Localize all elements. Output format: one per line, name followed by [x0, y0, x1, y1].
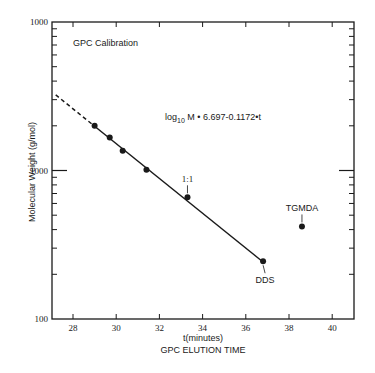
fit-line-dashed [56, 95, 95, 126]
point-label: TGMDA [286, 203, 319, 213]
x-tick-label: 34 [198, 323, 208, 333]
fit-line-solid [95, 126, 263, 262]
data-point [299, 223, 305, 229]
point-label: DDS [256, 275, 275, 285]
x-axis-label: t(minutes) [183, 333, 223, 343]
data-point [120, 148, 126, 154]
x-tick-label: 28 [69, 323, 79, 333]
x-tick-label: 40 [328, 323, 338, 333]
y-tick-label: 1000 [30, 17, 49, 27]
data-point [184, 194, 190, 200]
data-point [92, 123, 98, 129]
data-points: 1:1DDSTGMDA [92, 123, 319, 285]
y-axis-label: Molecular Weight (g/mol) [27, 122, 37, 222]
x-tick-label: 32 [155, 323, 164, 333]
data-point [260, 258, 266, 264]
data-point [143, 167, 149, 173]
x-axis-sublabel: GPC ELUTION TIME [161, 345, 246, 355]
label-leader [263, 265, 265, 273]
plot-frame [52, 22, 354, 319]
x-tick-label: 30 [112, 323, 122, 333]
y-tick-label: 100 [35, 314, 49, 324]
gpc-calibration-chart: 2830323436384010001000100 1:1DDSTGMDA GP… [0, 0, 375, 373]
x-tick-label: 38 [285, 323, 295, 333]
chart-title: GPC Calibration [73, 38, 138, 48]
data-point [107, 134, 113, 140]
x-tick-label: 36 [241, 323, 251, 333]
equation-label: log10 M • 6.697-0.1172•t [165, 112, 261, 124]
plot-border [52, 22, 354, 319]
point-label: 1:1 [182, 174, 194, 184]
